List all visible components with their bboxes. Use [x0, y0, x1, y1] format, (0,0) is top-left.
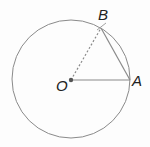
label-b: B [98, 6, 108, 23]
center-point [69, 78, 73, 82]
geometry-diagram: O A B [0, 0, 150, 147]
label-a: A [131, 72, 142, 89]
radius-ob-dashed [71, 28, 101, 80]
chord-ab [101, 28, 130, 80]
label-o: O [56, 77, 68, 94]
